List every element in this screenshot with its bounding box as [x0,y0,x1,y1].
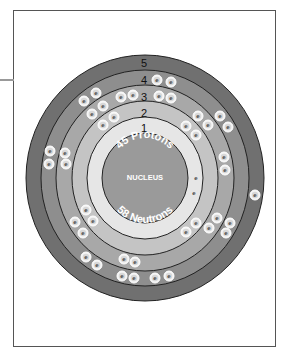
electron: e [128,90,138,100]
electron: e [193,111,203,121]
electron: e [44,159,54,169]
electron: e [117,271,127,281]
electron: e [98,120,108,130]
electron: e [60,148,70,158]
atom-diagram: 5 4 3 2 1 45 Protons 58 Neutrons NUCLEUS… [0,0,291,363]
electron: e [250,190,260,200]
electron: e [164,271,174,281]
electron: e [91,88,101,98]
electron: e [81,205,91,215]
electron: e [166,93,176,103]
electron: e [225,218,235,228]
electron: e [191,130,201,140]
electron: e [152,75,162,85]
electron: e [109,112,119,122]
electron: e [119,254,129,264]
electron: e [181,227,191,237]
electron: e [220,165,230,175]
electron: e [98,101,108,111]
shell-label-4: 4 [141,74,147,86]
electron: e [212,213,222,223]
shell-label-3: 3 [141,91,147,103]
shell-label-5: 5 [141,57,147,69]
electron: e [191,218,201,228]
electron: e [150,273,160,283]
electron: e [130,257,140,267]
electron: e [221,228,231,238]
electron: e [166,77,176,87]
electron: e [181,121,191,131]
shell-label-2: 2 [141,107,147,119]
electron: e [129,273,139,283]
electron: e [61,159,71,169]
nucleus-label: NUCLEUS [127,173,163,182]
electron: e [116,92,126,102]
electron: e [219,152,229,162]
electron: e [45,146,55,156]
electron: e [215,111,225,121]
electron: e [81,252,91,262]
electron: e [154,91,164,101]
electron: e [88,216,98,226]
electron: e [78,228,88,238]
electron: e [70,217,80,227]
electron: e [87,109,97,119]
electron: e [223,122,233,132]
electron: e [92,260,102,270]
electron: e [203,120,213,130]
shell-labels: 5 4 3 2 1 [141,57,147,134]
electron: e [204,223,214,233]
electron: e [79,96,89,106]
